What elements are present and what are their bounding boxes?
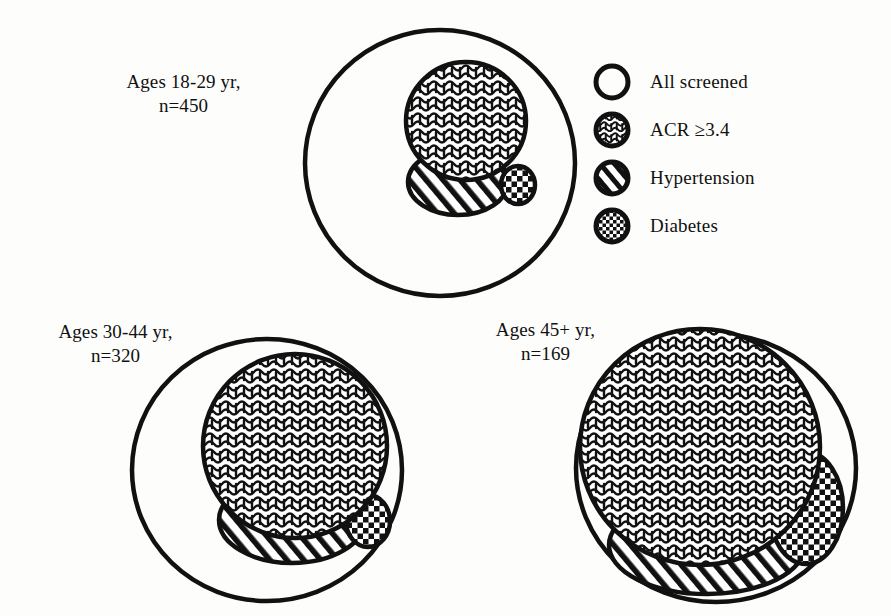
legend-label-hypertension: Hypertension [650, 167, 755, 189]
group-label-line-2: n=450 [76, 94, 291, 118]
acr-swatch-icon [592, 110, 632, 150]
legend-label-acr: ACR ≥3.4 [650, 119, 730, 141]
legend-label-diabetes: Diabetes [650, 215, 718, 237]
venn-figure: Ages 18-29 yr, n=450 Ages 30-44 yr, n=32… [0, 0, 891, 616]
group-label-line-1: Ages 30-44 yr, [8, 320, 223, 344]
all-screened-swatch-icon [592, 62, 632, 102]
venn-group-ages-18-29 [305, 30, 575, 296]
group-label-ages-45-plus: Ages 45+ yr, n=169 [438, 318, 653, 367]
diabetes-swatch-icon [592, 206, 632, 246]
venn-group-ages-30-44 [132, 339, 402, 601]
legend: All screened ACR ≥3.4 Hypertension Diabe… [592, 58, 882, 250]
set-acr-ages-30-44 [203, 354, 387, 538]
group-label-ages-18-29: Ages 18-29 yr, n=450 [76, 70, 291, 119]
legend-label-all-screened: All screened [650, 71, 748, 93]
set-diabetes-ages-18-29 [501, 166, 535, 204]
hypertension-swatch-icon [592, 158, 632, 198]
legend-item-diabetes: Diabetes [592, 202, 882, 250]
group-label-line-2: n=169 [438, 342, 653, 366]
legend-item-hypertension: Hypertension [592, 154, 882, 202]
legend-item-all-screened: All screened [592, 58, 882, 106]
venn-group-ages-45-plus [576, 329, 856, 602]
legend-item-acr: ACR ≥3.4 [592, 106, 882, 154]
set-acr-ages-18-29 [406, 62, 526, 180]
group-label-ages-30-44: Ages 30-44 yr, n=320 [8, 320, 223, 369]
group-label-line-1: Ages 45+ yr, [438, 318, 653, 342]
group-label-line-2: n=320 [8, 344, 223, 368]
group-label-line-1: Ages 18-29 yr, [76, 70, 291, 94]
